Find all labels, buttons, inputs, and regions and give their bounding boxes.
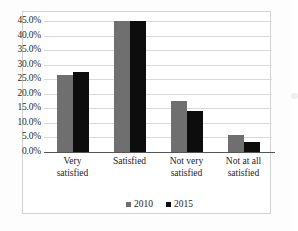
bar-2015-2	[130, 21, 146, 152]
y-axis-tick-label: 15.0%	[1, 103, 41, 113]
chart-legend: 20102015	[44, 197, 275, 211]
bar-2010-1	[57, 75, 73, 152]
y-axis-tick-label: 20.0%	[1, 89, 41, 99]
legend-label: 2010	[134, 199, 153, 209]
x-axis-label-3: Not verysatisfied	[158, 156, 215, 179]
x-axis-label-line: satisfied	[215, 168, 272, 180]
x-axis-label-line: Not at all	[215, 156, 272, 168]
bar-2010-4	[228, 135, 244, 152]
y-axis-tick-label: 5.0%	[1, 132, 41, 142]
y-axis-tick-label: 25.0%	[1, 74, 41, 84]
x-axis-label-line: Satisfied	[101, 156, 158, 168]
bar-group	[228, 21, 260, 152]
x-axis-label-1: Verysatisfied	[44, 156, 101, 179]
x-axis-label-line: satisfied	[44, 168, 101, 180]
y-axis-tick-label: 45.0%	[1, 16, 41, 26]
y-axis-tick-label: 40.0%	[1, 31, 41, 41]
x-axis-line	[44, 152, 275, 153]
y-axis-tick-label: 10.0%	[1, 118, 41, 128]
bar-group	[171, 21, 203, 152]
legend-label: 2015	[174, 199, 193, 209]
scan-artifact	[291, 93, 292, 99]
bar-group	[57, 21, 89, 152]
x-axis-label-2: Satisfied	[101, 156, 158, 168]
chart-figure: 0.0%5.0%10.0%15.0%20.0%25.0%30.0%35.0%40…	[0, 0, 292, 231]
bar-2015-3	[187, 111, 203, 152]
y-axis-tick-label: 0.0%	[1, 147, 41, 157]
x-axis-label-line: Very	[44, 156, 101, 168]
y-axis-tick-labels: 0.0%5.0%10.0%15.0%20.0%25.0%30.0%35.0%40…	[0, 21, 41, 152]
legend-swatch-icon	[166, 202, 171, 207]
bar-2010-2	[114, 21, 130, 152]
bar-2010-3	[171, 101, 187, 152]
y-axis-tick-label: 30.0%	[1, 60, 41, 70]
y-axis-tick-label: 35.0%	[1, 45, 41, 55]
legend-item-2010[interactable]: 2010	[126, 199, 153, 209]
legend-swatch-icon	[126, 202, 131, 207]
x-axis-category-labels: VerysatisfiedSatisfiedNot verysatisfiedN…	[44, 156, 275, 192]
bar-group	[114, 21, 146, 152]
x-axis-label-4: Not at allsatisfied	[215, 156, 272, 179]
x-axis-label-line: satisfied	[158, 168, 215, 180]
x-axis-label-line: Not very	[158, 156, 215, 168]
legend-item-2015[interactable]: 2015	[166, 199, 193, 209]
plot-area	[44, 21, 272, 152]
bar-2015-4	[244, 142, 260, 152]
bar-2015-1	[73, 72, 89, 152]
